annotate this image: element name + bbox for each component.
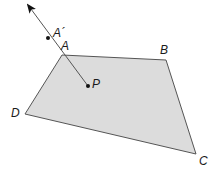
- point-a-prime-dot: [46, 36, 50, 40]
- label-c: C: [199, 154, 208, 168]
- quadrilateral-abcd: [25, 55, 196, 154]
- label-p: P: [92, 77, 100, 91]
- label-a-prime: A´: [52, 26, 65, 40]
- geometry-diagram: A B C D P A´: [0, 0, 218, 170]
- label-a: A: [60, 39, 69, 53]
- label-d: D: [11, 106, 20, 120]
- point-p-dot: [86, 84, 90, 88]
- label-b: B: [160, 43, 168, 57]
